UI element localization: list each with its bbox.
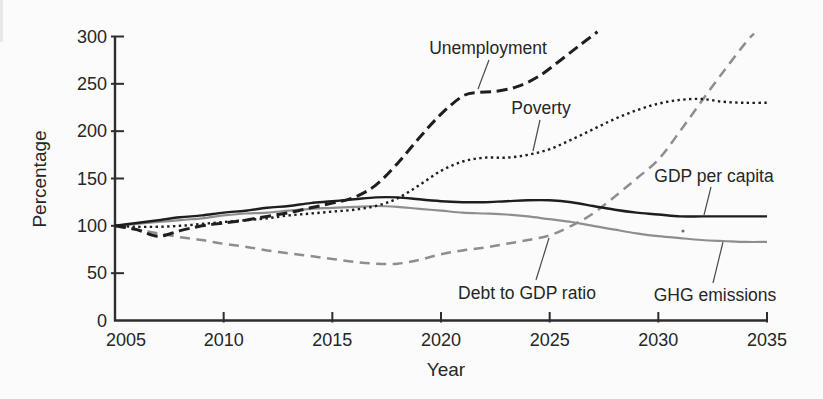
annotation-unemployment-leader: [478, 60, 489, 89]
y-tick-label: 150: [77, 169, 107, 189]
y-tick-label: 250: [77, 74, 107, 94]
annotation-debt-to-gdp-ratio-leader: [536, 238, 549, 280]
annotation-poverty-leader: [533, 120, 540, 151]
annotation-debt-to-gdp-ratio: Debt to GDP ratio: [458, 283, 596, 303]
x-tick-label: 2030: [638, 330, 678, 350]
x-tick-label: 2005: [106, 330, 146, 350]
series-poverty-line: [115, 99, 767, 227]
annotation-poverty: Poverty: [511, 98, 571, 118]
y-tick-label: 300: [77, 27, 107, 47]
y-tick-label: 50: [87, 263, 107, 283]
y-tick-label: 100: [77, 216, 107, 236]
annotation-gdp-per-capita: GDP per capita: [654, 166, 774, 186]
annotation-gdp-per-capita-leader: [704, 187, 711, 215]
annotation-unemployment: Unemployment: [429, 38, 547, 58]
plot-area: 0501001502002503002005201020152020202520…: [77, 27, 787, 350]
x-tick-label: 2035: [747, 330, 787, 350]
series-debt-to-gdp-ratio-line: [115, 34, 754, 264]
scan-edge-smudge: [0, 0, 3, 42]
line-chart: 0501001502002503002005201020152020202520…: [0, 0, 823, 399]
x-tick-label: 2015: [312, 330, 352, 350]
scan-speck-dot: [681, 229, 684, 232]
x-tick-label: 2010: [204, 330, 244, 350]
y-axis-label: Percentage: [29, 130, 50, 227]
figure-page: 0501001502002503002005201020152020202520…: [0, 0, 823, 399]
series-unemployment-line: [115, 32, 598, 236]
x-tick-label: 2025: [530, 330, 570, 350]
annotation-ghg-emissions: GHG emissions: [654, 285, 777, 305]
y-tick-label: 200: [77, 121, 107, 141]
x-axis-label: Year: [427, 359, 466, 380]
annotation-ghg-emissions-leader: [713, 242, 723, 283]
y-tick-label: 0: [97, 311, 107, 331]
x-tick-label: 2020: [421, 330, 461, 350]
